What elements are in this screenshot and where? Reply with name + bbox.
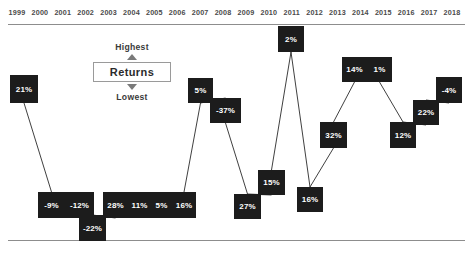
data-point-2011: 2% [278, 26, 304, 52]
triangle-down-icon [127, 84, 137, 90]
data-point-2002: -22% [79, 215, 106, 241]
triangle-up-icon [127, 54, 137, 60]
data-point-2004: 11% [128, 192, 151, 218]
data-point-2012: 16% [297, 187, 323, 212]
data-point-2013: 32% [320, 122, 347, 148]
returns-chart: 1999200020012002200320042005200620072008… [0, 0, 473, 257]
data-point-2014: 14% [342, 57, 367, 82]
legend-returns-box: Returns [93, 62, 171, 82]
legend-lowest-label: Lowest [116, 92, 147, 102]
legend-highest-label: Highest [115, 42, 149, 52]
data-point-2009: 27% [234, 194, 261, 219]
data-point-2018: -4% [436, 77, 462, 103]
data-point-2017: 22% [413, 100, 439, 125]
returns-legend: Highest Returns Lowest [72, 42, 192, 102]
data-point-2010: 15% [258, 170, 285, 195]
data-point-group: 28%11%5%16% [103, 192, 196, 218]
data-point-2005: 5% [151, 192, 172, 218]
data-point-2008: -37% [210, 98, 241, 123]
data-point-2000: -9% [38, 192, 65, 218]
data-point-1999: 21% [10, 75, 38, 103]
data-point-group: 14%1% [342, 57, 392, 82]
data-point-2003: 28% [103, 192, 128, 218]
data-point-2015: 1% [367, 57, 392, 82]
data-point-2016: 12% [390, 122, 416, 148]
data-point-2006: 16% [172, 192, 196, 218]
